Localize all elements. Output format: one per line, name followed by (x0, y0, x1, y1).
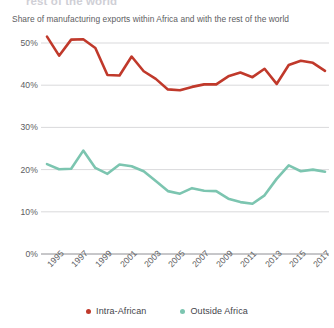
series-line-outside-africa (47, 151, 325, 204)
x-axis-labels: 1995199719992001200320052007200920112013… (41, 262, 333, 306)
y-tick-label: 40% (0, 80, 38, 90)
legend-item[interactable]: Outside Africa (180, 306, 247, 316)
legend-item[interactable]: Intra-African (86, 306, 146, 316)
y-tick-label: 10% (0, 207, 38, 217)
chart-card: rest of the world Share of manufacturing… (0, 0, 334, 328)
plot-wrapper: 0%10%20%30%40%50% (0, 30, 334, 262)
clipped-headline: rest of the world (26, 0, 296, 6)
line-chart-svg (41, 30, 329, 262)
y-tick-label: 50% (0, 38, 38, 48)
y-axis-labels: 0%10%20%30%40%50% (0, 30, 38, 262)
y-tick-label: 20% (0, 165, 38, 175)
y-tick-label: 30% (0, 122, 38, 132)
chart-subtitle: Share of manufacturing exports within Af… (12, 14, 330, 25)
legend-label: Outside Africa (190, 306, 247, 316)
y-tick-label: 0% (0, 249, 38, 259)
chart-legend: Intra-AfricanOutside Africa (0, 306, 334, 316)
legend-dot-icon (180, 309, 185, 314)
legend-dot-icon (86, 309, 91, 314)
plot-area (41, 30, 329, 262)
legend-label: Intra-African (96, 306, 146, 316)
series-line-intra-african (47, 37, 325, 91)
